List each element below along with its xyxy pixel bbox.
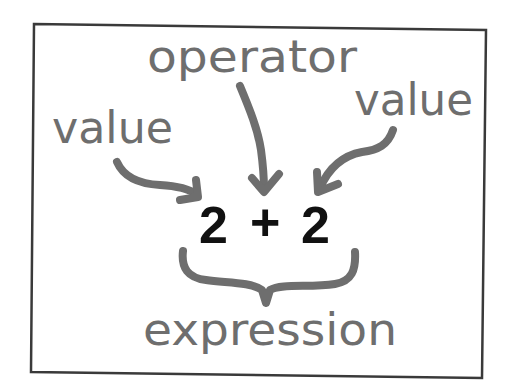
right-operand: 2 <box>301 196 330 254</box>
expression-diagram: operator value value 2 + 2 expression <box>0 0 513 386</box>
operator-symbol: + <box>250 193 280 251</box>
expression-label: expression <box>143 304 397 355</box>
curly-brace-icon <box>183 251 355 303</box>
arrow-left-icon <box>117 162 198 200</box>
arrow-right-icon <box>317 130 393 192</box>
value-label-left: value <box>52 102 173 153</box>
left-operand: 2 <box>199 196 228 254</box>
value-label-right: value <box>354 74 473 125</box>
operator-label: operator <box>147 31 358 82</box>
math-expression: 2 + 2 <box>199 193 330 254</box>
arrow-operator-icon <box>240 86 279 192</box>
